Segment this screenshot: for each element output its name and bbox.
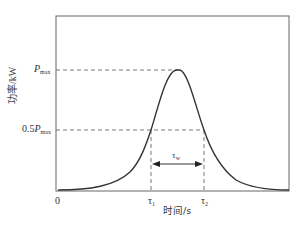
pmax-tick-label: Pmax (34, 64, 50, 75)
tau2-tick-label: τ2 (201, 196, 208, 207)
half-prefix: 0.5 (22, 123, 35, 134)
pmax-subscript: max (40, 69, 50, 75)
tau2-subscript: 2 (205, 201, 208, 207)
tau1-tick-label: τ1 (148, 196, 155, 207)
origin-tick-label: 0 (55, 196, 60, 206)
tauw-label: τw (172, 151, 180, 161)
x-axis-label: 时间/s (163, 206, 191, 216)
chart-canvas (0, 0, 304, 228)
arrow-right-icon (195, 161, 203, 167)
tau1-subscript: 1 (152, 201, 155, 207)
tauw-subscript: w (176, 155, 180, 161)
y-axis-label: 功率/kW (4, 67, 19, 104)
half-pmax-subscript: max (41, 129, 51, 135)
arrow-left-icon (152, 161, 160, 167)
plot-frame (56, 16, 289, 191)
half-pmax-tick-label: 0.5Pmax (22, 124, 51, 135)
